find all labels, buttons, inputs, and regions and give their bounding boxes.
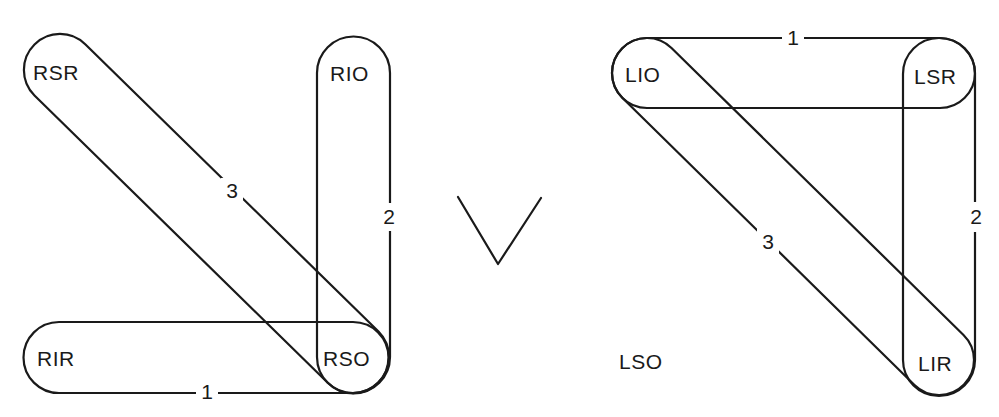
v-pattern-diagram: 1 2 3 RSR RIO RIR RSO 1 2 3 LIO LSR LSO …	[0, 0, 999, 417]
v-pattern-symbol	[458, 197, 541, 264]
pair-2-capsule-rio-rso	[317, 37, 390, 394]
pair-3-capsule-rsr-rso	[24, 34, 389, 393]
muscle-label-rir: RIR	[37, 347, 75, 370]
pair-number-2: 2	[383, 205, 395, 228]
muscle-label-lso: LSO	[619, 350, 663, 373]
muscle-label-rsr: RSR	[33, 61, 79, 84]
muscle-label-lsr: LSR	[914, 65, 956, 88]
pair-3-capsule-lio-lir	[612, 38, 974, 395]
muscle-label-lio: LIO	[625, 63, 660, 86]
muscle-label-rio: RIO	[330, 62, 369, 85]
pair-number-3: 3	[226, 179, 238, 202]
muscle-label-rso: RSO	[323, 347, 370, 370]
pair-2-capsule-lsr-lir	[903, 38, 975, 396]
pair-number-3: 3	[762, 230, 774, 253]
pair-number-2: 2	[970, 205, 982, 228]
muscle-label-lir: LIR	[918, 352, 952, 375]
pair-number-1: 1	[201, 380, 213, 403]
left-eye-diagram: 1 2 3 LIO LSR LSO LIR	[612, 26, 986, 396]
pair-number-1: 1	[787, 26, 799, 49]
right-eye-diagram: 1 2 3 RSR RIO RIR RSO	[24, 34, 401, 405]
